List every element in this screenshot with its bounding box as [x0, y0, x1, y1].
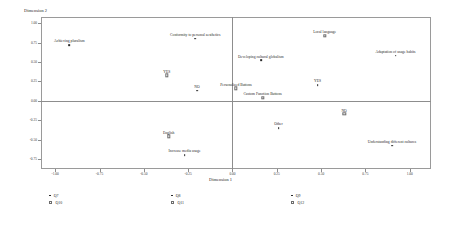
- y-tick: [38, 81, 41, 82]
- legend-label: Q10: [55, 201, 62, 205]
- data-point-label: NO: [341, 109, 346, 113]
- data-point-label: Increase media usage: [169, 149, 201, 153]
- legend-label: Q11: [177, 201, 184, 205]
- data-point: Local language: [323, 34, 326, 37]
- x-tick-label: 0.75: [362, 172, 368, 176]
- legend-marker: [291, 195, 293, 197]
- data-point-marker: [194, 38, 196, 40]
- x-tick-label: 1.00: [407, 172, 413, 176]
- legend-item: Q12: [291, 199, 304, 206]
- y-tick-label: -0.25: [24, 118, 37, 122]
- data-point-marker: [278, 127, 280, 129]
- data-point-marker: [184, 154, 186, 156]
- data-point: Conformity to personal aesthetics: [194, 38, 196, 40]
- data-point: Understanding different cultures: [391, 145, 393, 147]
- x-tick-label: -0.25: [184, 172, 191, 176]
- vertical-reference-line: [232, 17, 233, 169]
- chart-legend: Q7Q10Q8Q11Q9Q12: [41, 192, 431, 218]
- data-point: Personalized Buttons: [234, 87, 237, 90]
- x-tick: [55, 169, 56, 172]
- legend-label: Q12: [297, 201, 304, 205]
- data-point-marker: [196, 90, 198, 92]
- y-tick-label: 0.50: [24, 60, 37, 64]
- legend-item: Q9: [291, 192, 304, 199]
- x-tick-label: -0.50: [140, 172, 147, 176]
- x-tick: [410, 169, 411, 172]
- data-point-marker: [260, 60, 262, 62]
- data-point-label: Personalized Buttons: [220, 83, 252, 87]
- data-point-label: English: [163, 132, 174, 136]
- data-point: Other: [278, 127, 280, 129]
- data-point: Developing cultural globalism: [260, 60, 262, 62]
- y-tick: [38, 23, 41, 24]
- x-tick-label: -0.75: [96, 172, 103, 176]
- data-point: Custom Function Buttons: [261, 96, 264, 99]
- y-tick-label: 0.00: [24, 99, 37, 103]
- data-point: Increase media usage: [184, 154, 186, 156]
- data-point-label: Achieving pluralism: [54, 39, 85, 43]
- data-point: YES: [317, 84, 319, 86]
- y-tick-label: -0.50: [24, 138, 37, 142]
- legend-item: Q10: [49, 199, 62, 206]
- y-tick: [38, 62, 41, 63]
- legend-marker: [171, 201, 174, 204]
- x-tick-label: 0.25: [274, 172, 280, 176]
- x-tick: [188, 169, 189, 172]
- y-tick-label: -0.75: [24, 157, 37, 161]
- legend-marker: [49, 201, 52, 204]
- legend-marker: [49, 195, 51, 197]
- data-point-label: YES: [163, 70, 170, 74]
- legend-group: Q7Q10: [49, 192, 62, 206]
- horizontal-reference-line: [41, 101, 431, 102]
- plot-frame: [41, 17, 431, 169]
- data-point-label: Other: [274, 122, 283, 126]
- y-tick: [38, 43, 41, 44]
- x-tick: [365, 169, 366, 172]
- data-point-marker: [395, 55, 397, 57]
- data-point-label: Understanding different cultures: [368, 140, 417, 144]
- x-tick-label: 0.00: [229, 172, 235, 176]
- data-point-label: Developing cultural globalism: [238, 55, 283, 59]
- perceptual-map-chart: Dimension 2 1.000.750.500.250.00-0.25-0.…: [0, 0, 452, 226]
- x-tick: [321, 169, 322, 172]
- data-point-label: Custom Function Buttons: [243, 93, 281, 97]
- x-tick-label: -1.00: [52, 172, 59, 176]
- legend-label: Q7: [54, 194, 59, 198]
- data-point-label: NO: [194, 85, 199, 89]
- data-point: NO: [342, 112, 345, 115]
- legend-item: Q8: [171, 192, 184, 199]
- legend-label: Q9: [296, 194, 301, 198]
- y-tick: [38, 120, 41, 121]
- y-axis-title: Dimension 2: [24, 8, 47, 13]
- data-point: English: [167, 135, 170, 138]
- data-point: Achieving pluralism: [69, 44, 71, 46]
- data-point: Adaptation of usage habits: [395, 55, 397, 57]
- data-point-marker: [317, 84, 319, 86]
- legend-marker: [291, 201, 294, 204]
- plot-area: 1.000.750.500.250.00-0.25-0.50-0.75 -1.0…: [41, 17, 431, 169]
- legend-group: Q8Q11: [171, 192, 184, 206]
- x-tick-label: 0.50: [318, 172, 324, 176]
- data-point-label: Conformity to personal aesthetics: [170, 33, 220, 37]
- data-point: NO: [196, 90, 198, 92]
- legend-item: Q7: [49, 192, 62, 199]
- y-tick: [38, 159, 41, 160]
- y-tick: [38, 101, 41, 102]
- data-point: YES: [165, 73, 168, 76]
- data-point-marker: [69, 44, 71, 46]
- x-tick: [100, 169, 101, 172]
- x-tick: [232, 169, 233, 172]
- data-point-label: Adaptation of usage habits: [376, 50, 416, 54]
- legend-group: Q9Q12: [291, 192, 304, 206]
- legend-item: Q11: [171, 199, 184, 206]
- data-point-marker: [391, 145, 393, 147]
- y-tick-label: 1.00: [24, 21, 37, 25]
- y-tick: [38, 140, 41, 141]
- x-tick: [144, 169, 145, 172]
- legend-marker: [171, 195, 173, 197]
- y-tick-label: 0.75: [24, 41, 37, 45]
- data-point-label: YES: [314, 79, 321, 83]
- x-axis-title: Dimension 1: [209, 177, 232, 182]
- y-tick-label: 0.25: [24, 79, 37, 83]
- x-tick: [277, 169, 278, 172]
